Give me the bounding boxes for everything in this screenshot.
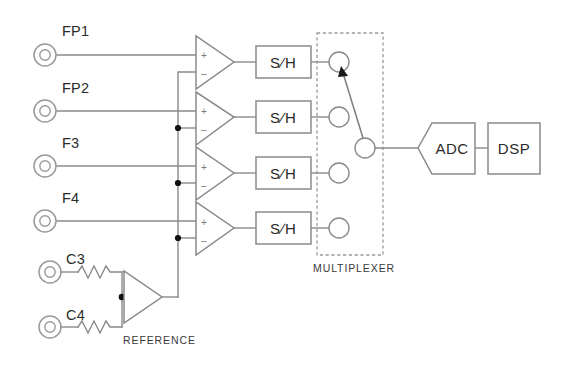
electrode-label-fp2: FP2	[62, 80, 89, 96]
sample-hold-label: S∕H	[270, 220, 297, 237]
mux-input-node-3[interactable]	[329, 163, 349, 183]
sample-hold-label: S∕H	[270, 165, 297, 182]
junction-dot-amp2	[175, 125, 181, 131]
sample-hold-label: S∕H	[270, 54, 297, 71]
multiplexer-caption: MULTIPLEXER	[313, 262, 395, 274]
amplifier-4-plus-sign: +	[201, 217, 207, 228]
adc-label: ADC	[435, 140, 468, 157]
electrode-c3[interactable]: C3	[39, 251, 85, 283]
amplifier-4[interactable]: + –	[196, 202, 234, 255]
mux-output-node[interactable]	[355, 138, 375, 158]
electrode-label-c3: C3	[66, 251, 85, 267]
electrode-icon-inner	[40, 106, 50, 116]
electrode-c4[interactable]: C4	[39, 307, 85, 338]
amplifier-triangle-icon	[196, 92, 234, 145]
amp-to-sh-wires	[232, 62, 256, 228]
electrode-label-f4: F4	[62, 190, 79, 206]
amplifier-triangle-icon	[196, 147, 234, 200]
amplifier-4-minus-sign: –	[201, 235, 207, 246]
amplifier-1[interactable]: + –	[196, 36, 234, 89]
electrode-f4[interactable]: F4	[34, 190, 79, 232]
mux-input-node-4[interactable]	[329, 218, 349, 238]
sample-hold-block-4[interactable]: S∕H	[256, 212, 311, 244]
diagram-canvas: FP1 FP2 F3 F4 C3 C4	[0, 0, 577, 377]
resistor-c3-icon	[78, 266, 122, 278]
electrode-icon-inner	[40, 50, 50, 60]
electrode-f3[interactable]: F3	[34, 135, 79, 177]
dsp-block[interactable]: DSP	[488, 123, 540, 174]
sample-hold-block-3[interactable]: S∕H	[256, 157, 311, 189]
electrode-icon-inner	[45, 267, 55, 277]
sample-hold-label: S∕H	[270, 109, 297, 126]
junction-dot-amp4	[175, 235, 181, 241]
electrode-icon-inner	[45, 322, 55, 332]
electrode-icon-inner	[40, 216, 50, 226]
electrode-icon-inner	[40, 161, 50, 171]
multiplexer[interactable]: MULTIPLEXER	[313, 33, 395, 274]
eeg-block-diagram: FP1 FP2 F3 F4 C3 C4	[0, 0, 577, 377]
amplifier-2[interactable]: + –	[196, 92, 234, 145]
amplifier-triangle-icon	[196, 202, 234, 255]
amplifier-1-minus-sign: –	[201, 68, 207, 79]
sample-hold-block-1[interactable]: S∕H	[256, 46, 311, 78]
reference-amplifier-icon	[124, 271, 162, 323]
mux-switch-arm[interactable]	[343, 73, 363, 138]
reference-network: REFERENCE	[61, 266, 196, 346]
sample-hold-block-2[interactable]: S∕H	[256, 101, 311, 133]
sh-to-mux-wires	[311, 62, 329, 228]
electrode-label-fp1: FP1	[62, 23, 89, 39]
adc-block[interactable]: ADC	[418, 123, 475, 174]
dsp-label: DSP	[498, 140, 530, 157]
amplifier-3-minus-sign: –	[201, 180, 207, 191]
amplifier-3[interactable]: + –	[196, 147, 234, 200]
electrode-label-f3: F3	[62, 135, 79, 151]
electrode-fp2[interactable]: FP2	[34, 80, 89, 122]
amplifier-1-plus-sign: +	[201, 50, 207, 61]
amplifier-2-plus-sign: +	[201, 106, 207, 117]
electrode-fp1[interactable]: FP1	[34, 23, 89, 66]
reference-bus-wiring	[160, 72, 196, 297]
amplifier-3-plus-sign: +	[201, 162, 207, 173]
mux-input-node-2[interactable]	[329, 107, 349, 127]
amplifier-2-minus-sign: –	[201, 124, 207, 135]
reference-caption: REFERENCE	[123, 334, 196, 346]
amplifier-triangle-icon	[196, 36, 234, 89]
junction-dot-amp3	[175, 180, 181, 186]
mux-input-node-1[interactable]	[329, 52, 349, 72]
